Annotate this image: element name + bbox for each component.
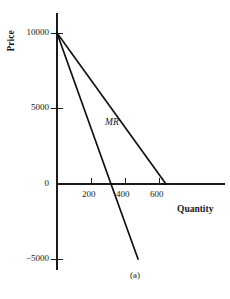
y-tick-label-5000: 5000	[16, 103, 49, 112]
y-tick-label-10000: 10000	[16, 28, 49, 37]
x-tick-label-400: 400	[116, 190, 130, 199]
mr-series-label: MR	[105, 118, 119, 128]
figure-caption: (a)	[130, 271, 140, 280]
chart-figure: Price 10000 5000 0 −5000 200 400 600 Qua…	[0, 0, 230, 299]
mr-curve-line	[57, 33, 138, 259]
y-tick-label-minus5000: −5000	[10, 254, 49, 263]
x-tick-label-600: 600	[150, 190, 164, 199]
y-axis-title: Price	[7, 30, 17, 51]
x-tick-label-200: 200	[82, 190, 96, 199]
x-axis-title: Quantity	[177, 205, 213, 215]
demand-curve-line	[57, 33, 166, 184]
y-tick-label-0: 0	[16, 179, 49, 188]
